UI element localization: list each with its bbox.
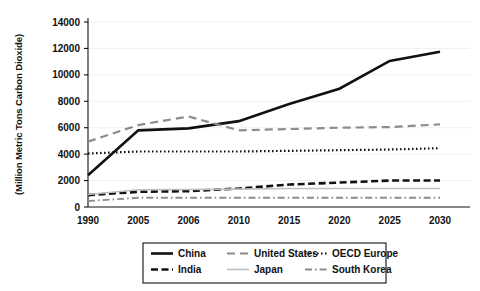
x-tick-label: 1990 bbox=[77, 215, 100, 226]
y-tick-label: 2000 bbox=[58, 175, 81, 186]
co2-emissions-line-chart: 02000400060008000100001200014000 1990200… bbox=[0, 0, 480, 291]
y-tick-label: 14000 bbox=[52, 17, 80, 28]
x-tick-label: 2005 bbox=[127, 215, 150, 226]
axes-group bbox=[84, 18, 470, 207]
series-line-oecd-europe bbox=[88, 148, 440, 153]
legend-label-japan: Japan bbox=[254, 264, 283, 275]
legend-label-united-states: United States bbox=[254, 248, 318, 259]
x-tick-label: 2006 bbox=[177, 215, 200, 226]
y-axis-title-group: (Million Metric Tons Carbon Dioxide) bbox=[13, 34, 24, 195]
series-line-south-korea bbox=[88, 198, 440, 201]
y-tick-labels-group: 02000400060008000100001200014000 bbox=[52, 17, 80, 213]
gridlines-group bbox=[88, 22, 470, 181]
x-tick-label: 2020 bbox=[328, 215, 351, 226]
y-tick-label: 8000 bbox=[58, 96, 81, 107]
x-tick-labels-group: 19902005200620102015202020252030 bbox=[77, 215, 452, 226]
x-tick-label: 2010 bbox=[228, 215, 251, 226]
x-tick-label: 2030 bbox=[429, 215, 452, 226]
y-tick-label: 12000 bbox=[52, 43, 80, 54]
chart-canvas: 02000400060008000100001200014000 1990200… bbox=[0, 0, 480, 291]
y-axis-title: (Million Metric Tons Carbon Dioxide) bbox=[13, 34, 24, 195]
data-series-group bbox=[88, 52, 440, 201]
legend-label-oecd-europe: OECD Europe bbox=[332, 248, 399, 259]
legend-label-south-korea: South Korea bbox=[332, 264, 392, 275]
legend-label-china: China bbox=[178, 248, 206, 259]
y-tick-label: 6000 bbox=[58, 122, 81, 133]
y-tick-label: 10000 bbox=[52, 69, 80, 80]
series-line-china bbox=[88, 52, 440, 176]
legend-group: ChinaUnited StatesOECD EuropeIndiaJapanS… bbox=[143, 243, 399, 283]
x-tick-label: 2025 bbox=[379, 215, 402, 226]
x-tick-label: 2015 bbox=[278, 215, 301, 226]
y-tick-label: 0 bbox=[74, 202, 80, 213]
y-tick-label: 4000 bbox=[58, 149, 81, 160]
legend-label-india: India bbox=[178, 264, 202, 275]
